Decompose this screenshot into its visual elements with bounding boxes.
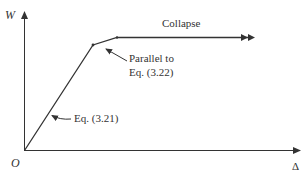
parallel-label-line2: Eq. (3.22) [129,66,174,79]
collapse-double-arrow-icon [241,34,255,41]
parallel-annotation: Parallel to Eq. (3.22) [106,49,174,79]
y-axis-label: W [5,8,16,22]
yield-point-marker [92,44,95,47]
collapse-label: Collapse [162,17,201,29]
elastic-eq-label: Eq. (3.21) [74,112,119,125]
x-axis-label: Δ [292,160,299,172]
load-displacement-diagram: W Δ O Collapse Parallel to Eq. (3.22) Eq… [0,0,304,176]
parallel-label-line1: Parallel to [129,52,174,64]
elastic-annotation: Eq. (3.21) [52,112,119,125]
collapse-point-marker [116,36,118,38]
origin-label: O [11,156,20,170]
